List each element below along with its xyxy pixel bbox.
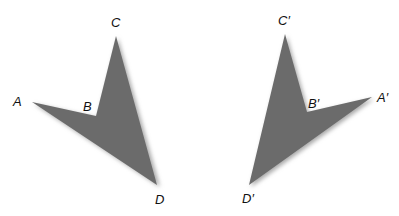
label-a-prime: A′ [376,90,389,105]
label-c: C [111,15,121,30]
label-c-prime: C′ [278,13,290,28]
label-b-prime: B′ [308,96,320,111]
reflection-diagram: A B C D A′ B′ C′ D′ [0,0,399,216]
label-a: A [12,94,22,109]
image-figure: A′ B′ C′ D′ [242,13,389,206]
label-d-prime: D′ [242,191,254,206]
label-d: D [155,192,164,207]
original-figure: A B C D [12,15,164,207]
label-b: B [83,99,92,114]
